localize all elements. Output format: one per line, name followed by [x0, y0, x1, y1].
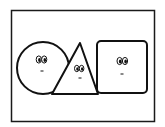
shapes-diagram [0, 0, 165, 127]
square-shape [97, 41, 147, 93]
square-character [97, 41, 147, 93]
